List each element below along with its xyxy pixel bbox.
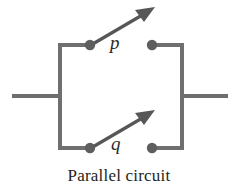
switch-label-q: q — [111, 134, 121, 153]
node-top-left-dot — [85, 40, 95, 50]
node-bottom-left-dot — [85, 143, 95, 153]
switch-p-arrowhead — [135, 7, 155, 22]
switch-p-arm — [91, 7, 155, 45]
node-bottom-right-dot — [147, 143, 157, 153]
switch-q-arrowhead — [135, 110, 155, 125]
parallel-circuit-figure: p q Parallel circuit — [0, 0, 238, 196]
switch-q-arm — [91, 110, 155, 148]
node-top-right-dot — [147, 40, 157, 50]
switch-label-p: p — [110, 33, 120, 52]
figure-caption: Parallel circuit — [0, 167, 238, 186]
